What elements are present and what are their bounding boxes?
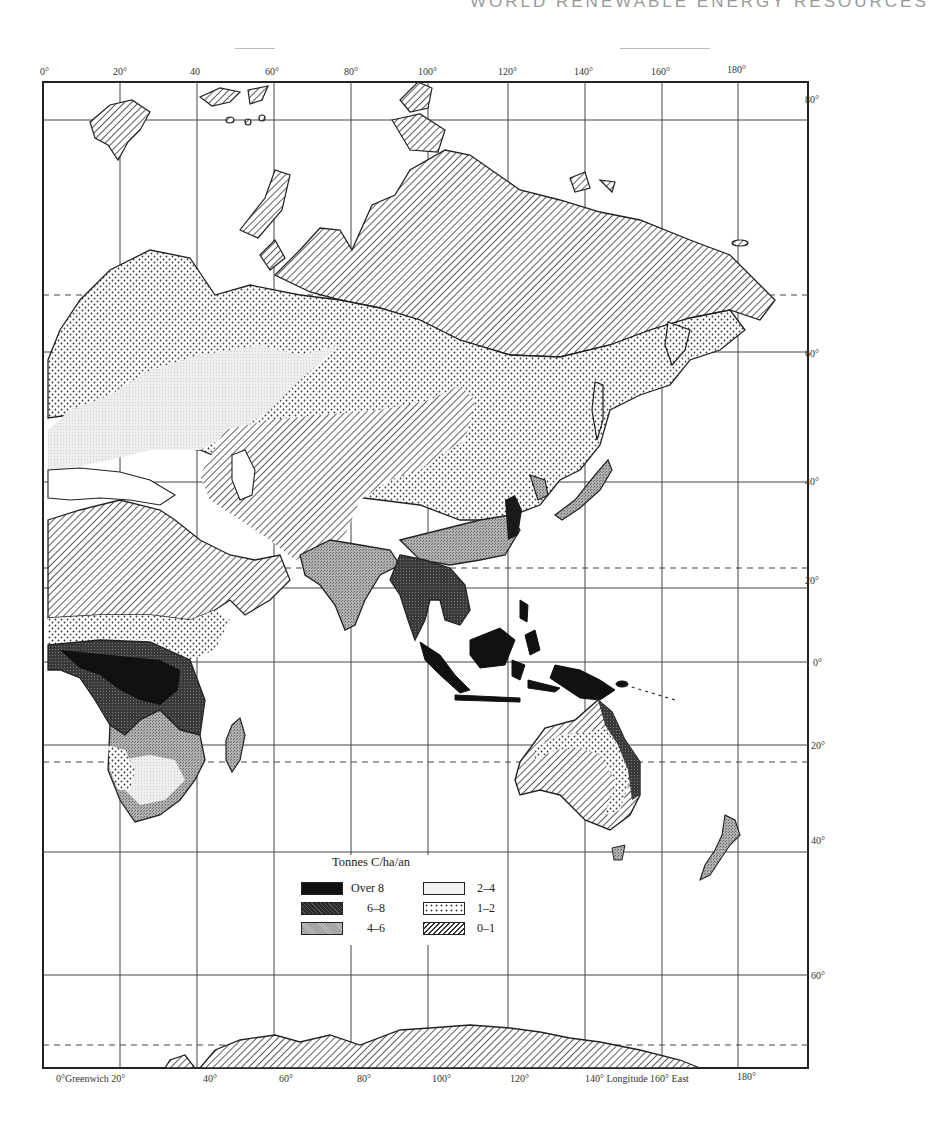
lon-label-top: 140° xyxy=(574,66,593,77)
region-pacific-islands xyxy=(625,685,675,700)
legend-label: 6–8 xyxy=(367,901,385,916)
legend-item-2-4: 2–4 xyxy=(423,881,495,895)
swatch-dots xyxy=(423,902,465,915)
legend-item-6-8: 6–8 xyxy=(301,901,385,915)
lat-label: 60° xyxy=(811,970,825,981)
lat-label: 40° xyxy=(811,835,825,846)
legend-label: 1–2 xyxy=(477,901,495,916)
lon-label-bottom: 60° xyxy=(279,1073,293,1084)
lat-label: 80° xyxy=(805,94,819,105)
lat-label: 40° xyxy=(805,476,819,487)
swatch-solid-black xyxy=(301,882,343,895)
legend-item-4-6: 4–6 xyxy=(301,921,385,935)
legend-label: 0–1 xyxy=(477,921,495,936)
swatch-diagonal-hatch xyxy=(423,922,465,935)
lon-label-bottom: 180° xyxy=(737,1071,756,1082)
lon-label-top: 40 xyxy=(190,66,200,77)
lon-label-bottom: 40° xyxy=(203,1073,217,1084)
legend-label: Over 8 xyxy=(351,881,384,896)
legend-title: Tonnes C/ha/an xyxy=(332,855,410,870)
legend-label: 2–4 xyxy=(477,881,495,896)
lon-label-top: 20° xyxy=(113,66,127,77)
lon-label-top: 60° xyxy=(265,66,279,77)
region-madagascar xyxy=(226,718,245,772)
swatch-medium-stipple xyxy=(301,922,343,935)
lat-label: 20° xyxy=(811,740,825,751)
swatch-light-fill xyxy=(423,882,465,895)
map-legend: Tonnes C/ha/an Over 8 6–8 4–6 2–4 1–2 0–… xyxy=(297,855,497,945)
lon-label-top: 160° xyxy=(651,66,670,77)
legend-item-1-2: 1–2 xyxy=(423,901,495,915)
lat-label: 60° xyxy=(805,348,819,359)
legend-item-over-8: Over 8 xyxy=(301,881,384,895)
lon-label-bottom: 140° Longitude 160° East xyxy=(585,1073,689,1084)
lon-label-bottom: 80° xyxy=(357,1073,371,1084)
region-india xyxy=(300,540,400,630)
region-new-zealand xyxy=(700,815,740,880)
region-antarctica xyxy=(165,1025,700,1068)
lat-label: 0° xyxy=(813,657,822,668)
region-indochina xyxy=(390,555,470,640)
legend-label: 4–6 xyxy=(367,921,385,936)
lon-label-bottom: 120° xyxy=(510,1073,529,1084)
lon-label-top: 100° xyxy=(418,66,437,77)
lon-label-top: 120° xyxy=(498,66,517,77)
region-tasmania xyxy=(612,845,625,860)
region-south-china xyxy=(400,515,520,565)
legend-item-0-1: 0–1 xyxy=(423,921,495,935)
lon-label-top: 180° xyxy=(727,64,746,75)
lon-label-bottom: 100° xyxy=(432,1073,451,1084)
lon-label-top: 80° xyxy=(344,66,358,77)
lon-label-bottom: 0°Greenwich 20° xyxy=(56,1073,125,1084)
water-mediterranean xyxy=(48,468,175,505)
swatch-dark-crosshatch xyxy=(301,902,343,915)
lon-label-top: 0° xyxy=(40,66,49,77)
lat-label: 20° xyxy=(805,575,819,586)
